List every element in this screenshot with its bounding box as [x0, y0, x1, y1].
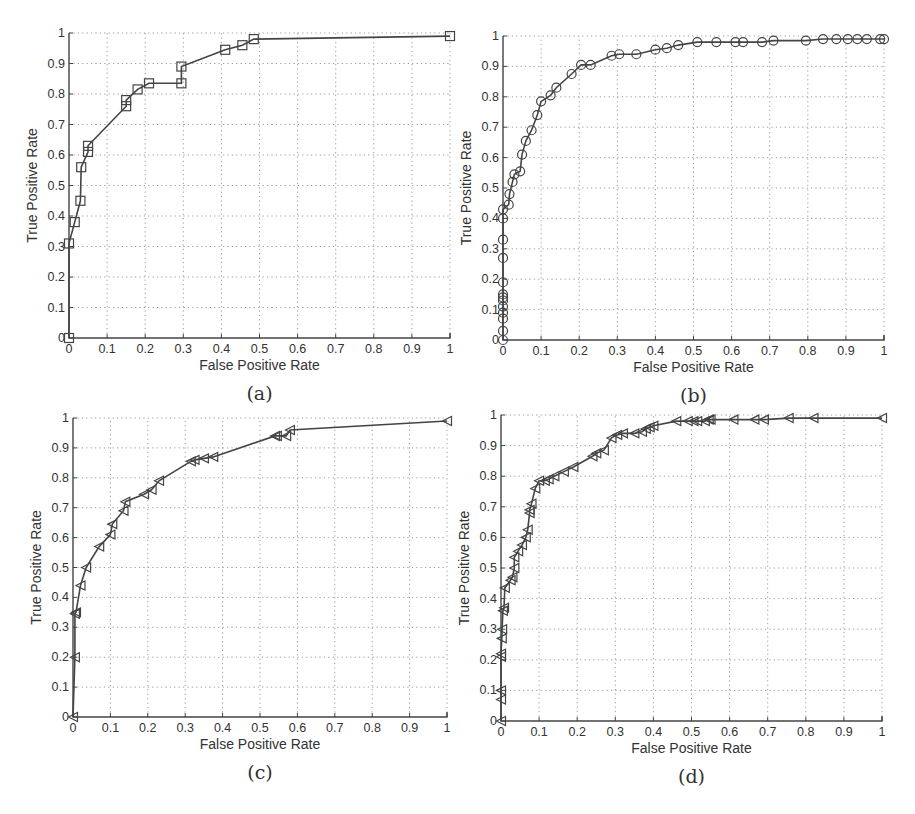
x-tick-label: 0.4 [213, 342, 230, 356]
x-tick-label: 0.3 [607, 725, 624, 739]
y-tick-label: 0.3 [480, 622, 497, 636]
panel-caption: (a) [246, 382, 272, 404]
roc-figure: 00.10.20.30.40.50.60.70.80.9100.10.20.30… [0, 0, 915, 814]
y-tick-label: 1 [490, 408, 497, 422]
y-tick-label: 0.4 [482, 211, 499, 225]
x-axis-label: False Positive Rate [200, 736, 321, 752]
x-tick-label: 1 [879, 725, 886, 739]
y-tick-label: 0.9 [48, 57, 65, 71]
x-tick-label: 0.6 [289, 342, 306, 356]
x-tick-label: 0.9 [837, 344, 854, 358]
y-tick-label: 0.1 [52, 680, 69, 694]
x-tick-label: 0.1 [532, 344, 549, 358]
x-tick-label: 1 [447, 342, 454, 356]
y-tick-label: 0.5 [52, 561, 69, 575]
x-tick-label: 0.3 [177, 721, 194, 735]
x-tick-label: 0 [66, 342, 73, 356]
x-tick-label: 0.7 [761, 344, 778, 358]
x-tick-label: 0.8 [365, 342, 382, 356]
x-tick-label: 0 [70, 721, 77, 735]
y-tick-label: 0.9 [480, 439, 497, 453]
y-tick-label: 0.6 [52, 531, 69, 545]
x-tick-label: 0.5 [683, 725, 700, 739]
y-tick-label: 0.7 [482, 120, 499, 134]
x-tick-label: 0.3 [609, 344, 626, 358]
y-tick-label: 0.2 [48, 270, 65, 284]
y-tick-label: 0.8 [48, 87, 65, 101]
y-tick-label: 0.3 [48, 240, 65, 254]
x-tick-label: 0.7 [326, 721, 343, 735]
y-tick-label: 0.1 [48, 301, 65, 315]
roc-chart-d: 00.10.20.30.40.50.60.70.80.9100.10.20.30… [456, 408, 887, 787]
y-axis-label: True Positive Rate [456, 510, 472, 625]
x-tick-label: 0.8 [364, 721, 381, 735]
y-axis-label: True Positive Rate [24, 128, 40, 243]
x-tick-label: 0.6 [723, 344, 740, 358]
x-axis-label: False Positive Rate [633, 359, 754, 375]
axes-frame [503, 36, 884, 340]
x-tick-label: 0.8 [799, 344, 816, 358]
y-tick-label: 0.3 [52, 620, 69, 634]
y-tick-label: 0.8 [52, 471, 69, 485]
x-tick-label: 0.4 [214, 721, 231, 735]
roc-chart-a: 00.10.20.30.40.50.60.70.80.9100.10.20.30… [24, 26, 455, 404]
x-tick-label: 0.6 [289, 721, 306, 735]
y-tick-label: 0.5 [480, 561, 497, 575]
roc-curve [69, 36, 450, 338]
x-tick-label: 0.1 [102, 721, 119, 735]
y-tick-label: 0.4 [480, 592, 497, 606]
x-tick-label: 0.7 [327, 342, 344, 356]
y-tick-label: 0.7 [48, 118, 65, 132]
y-tick-label: 0.2 [52, 650, 69, 664]
x-tick-label: 0.2 [137, 342, 154, 356]
x-tick-label: 0.9 [835, 725, 852, 739]
x-tick-label: 0.2 [571, 344, 588, 358]
x-tick-label: 0.6 [721, 725, 738, 739]
x-tick-label: 0.9 [403, 342, 420, 356]
panel-caption: (d) [678, 765, 705, 787]
y-tick-label: 0.7 [480, 500, 497, 514]
x-tick-label: 0.5 [251, 342, 268, 356]
y-axis-label: True Positive Rate [458, 130, 474, 245]
x-tick-label: 0.4 [645, 725, 662, 739]
axes-frame [69, 33, 450, 338]
x-tick-label: 0.1 [98, 342, 115, 356]
y-tick-label: 0.1 [482, 303, 499, 317]
x-tick-label: 0.7 [759, 725, 776, 739]
grid-lines [501, 415, 882, 721]
x-axis-label: False Positive Rate [631, 740, 752, 756]
grid-lines [73, 418, 447, 717]
x-tick-label: 0.5 [685, 344, 702, 358]
x-tick-label: 0.2 [139, 721, 156, 735]
roc-chart-b: 00.10.20.30.40.50.60.70.80.9100.10.20.30… [458, 29, 889, 406]
x-tick-label: 0.8 [797, 725, 814, 739]
y-tick-label: 0.4 [52, 590, 69, 604]
panel-caption: (c) [247, 761, 272, 783]
y-tick-label: 0.6 [480, 530, 497, 544]
grid-lines [503, 36, 884, 340]
y-axis-label: True Positive Rate [28, 510, 44, 625]
y-tick-label: 0.9 [52, 441, 69, 455]
y-tick-label: 0.8 [482, 90, 499, 104]
y-tick-label: 0.9 [482, 59, 499, 73]
y-tick-label: 0.5 [48, 179, 65, 193]
y-tick-label: 0.2 [480, 653, 497, 667]
y-tick-label: 0.5 [482, 181, 499, 195]
x-tick-label: 0.3 [175, 342, 192, 356]
x-tick-label: 0 [498, 725, 505, 739]
x-tick-label: 1 [881, 344, 888, 358]
y-tick-label: 0.1 [480, 683, 497, 697]
roc-curve [501, 418, 882, 721]
x-tick-label: 0.5 [251, 721, 268, 735]
y-tick-label: 0.6 [482, 151, 499, 165]
y-tick-label: 1 [492, 29, 499, 43]
roc-chart-c: 00.10.20.30.40.50.60.70.80.9100.10.20.30… [28, 411, 452, 783]
x-tick-label: 0.2 [569, 725, 586, 739]
y-tick-label: 0.7 [52, 501, 69, 515]
y-tick-label: 0.6 [48, 148, 65, 162]
x-tick-label: 0 [500, 344, 507, 358]
grid-lines [69, 33, 450, 338]
markers [69, 416, 452, 721]
y-tick-label: 0.3 [482, 242, 499, 256]
y-tick-label: 0.4 [48, 209, 65, 223]
